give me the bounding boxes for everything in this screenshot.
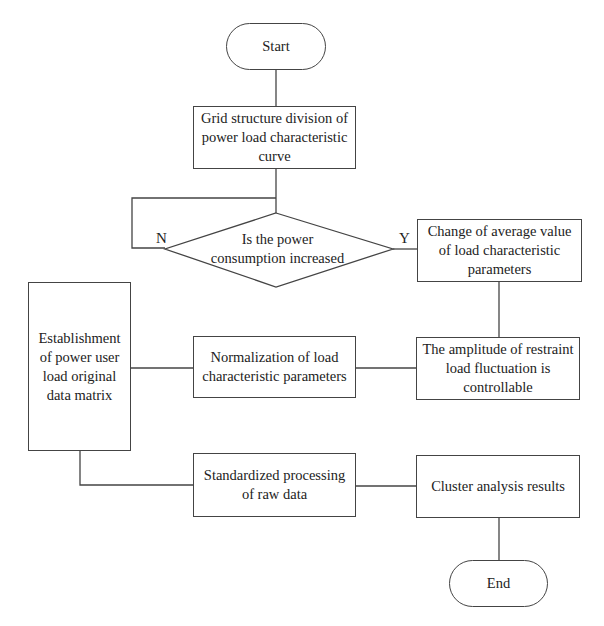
end-terminal: End (449, 560, 548, 607)
no-branch-label: N (156, 230, 167, 247)
decision-label: Is the power consumption increased (205, 230, 350, 268)
grid-structure-box: Grid structure division of power load ch… (193, 106, 356, 169)
end-label: End (487, 574, 510, 593)
cluster-results-box: Cluster analysis results (416, 455, 580, 518)
establishment-box: Establishment of power user load origina… (28, 282, 131, 451)
establishment-label: Establishment of power user load origina… (33, 329, 126, 405)
start-label: Start (262, 37, 289, 56)
yes-branch-label: Y (399, 230, 410, 247)
change-average-box: Change of average value of load characte… (417, 219, 582, 282)
start-terminal: Start (226, 23, 326, 70)
normalization-box: Normalization of load characteristic par… (193, 336, 356, 398)
change-average-label: Change of average value of load characte… (422, 222, 577, 279)
grid-structure-label: Grid structure division of power load ch… (198, 109, 351, 166)
standardized-label: Standardized processing of raw data (198, 466, 351, 504)
standardized-box: Standardized processing of raw data (193, 453, 356, 517)
restraint-amplitude-label: The amplitude of restraint load fluctuat… (421, 340, 575, 397)
restraint-amplitude-box: The amplitude of restraint load fluctuat… (416, 337, 580, 400)
normalization-label: Normalization of load characteristic par… (198, 348, 351, 386)
cluster-results-label: Cluster analysis results (431, 477, 565, 496)
